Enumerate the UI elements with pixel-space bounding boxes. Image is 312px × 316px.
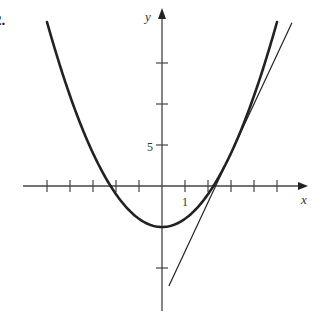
y-axis-arrow-icon bbox=[158, 8, 166, 19]
x-tick-label-1: 1 bbox=[182, 195, 188, 209]
y-tick-label-5: 5 bbox=[147, 140, 153, 154]
x-axis-label: x bbox=[300, 192, 307, 207]
function-graph: x y 1 5 bbox=[0, 0, 312, 316]
axes bbox=[23, 8, 308, 311]
x-axis-arrow-icon bbox=[298, 182, 308, 190]
y-axis-label: y bbox=[143, 9, 151, 24]
plot-series bbox=[47, 22, 292, 286]
tangent-line bbox=[169, 23, 292, 286]
